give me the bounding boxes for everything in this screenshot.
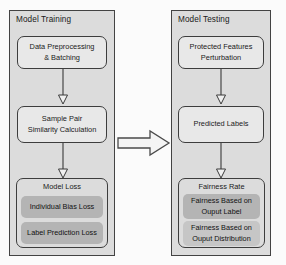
node-sample-pair-similarity-calculation[interactable]: Sample Pair Similarity Calculation [17, 106, 107, 143]
block-arrow-training-to-testing [117, 129, 171, 157]
connector-perturbation-to-predicted-labels [215, 69, 227, 106]
connector-predicted-labels-to-fairness-rate [215, 143, 227, 180]
group-model-loss-title: Model Loss [17, 182, 107, 193]
group-fairness-rate[interactable]: Fairness Rate Fairness Based on Ouput La… [178, 178, 265, 248]
connector-similarity-to-model-loss [57, 143, 69, 180]
group-model-loss[interactable]: Model Loss Individual Bias Loss Label Pr… [16, 178, 108, 248]
subbox-fairness-distribution-text: Fairness Based on Ouput Distribution [191, 223, 252, 243]
connector-preprocessing-to-similarity [57, 69, 69, 106]
diagram-canvas: Model Training Data Preprocessing & Batc… [0, 0, 286, 265]
panel-training-title: Model Training [16, 15, 71, 24]
subbox-fairness-based-on-ouput-distribution[interactable]: Fairness Based on Ouput Distribution [183, 221, 260, 246]
subbox-fairness-based-on-ouput-label[interactable]: Fairness Based on Ouput Label [183, 194, 260, 219]
panel-testing-title: Model Testing [178, 15, 230, 24]
node-preprocessing-label: Data Preprocessing & Batching [30, 42, 95, 63]
subbox-individual-bias-label: Individual Bias Loss [30, 202, 95, 212]
group-fairness-rate-title: Fairness Rate [179, 182, 264, 193]
node-protected-features-perturbation[interactable]: Protected Features Perturbation [178, 36, 264, 69]
node-perturbation-label: Protected Features Perturbation [190, 42, 253, 63]
node-data-preprocessing-batching[interactable]: Data Preprocessing & Batching [17, 36, 107, 69]
node-similarity-label: Sample Pair Similarity Calculation [28, 114, 97, 135]
subbox-fairness-label-text: Fairness Based on Ouput Label [191, 196, 252, 216]
subbox-label-prediction-label: Label Prediction Loss [27, 228, 97, 238]
subbox-individual-bias-loss[interactable]: Individual Bias Loss [21, 196, 103, 218]
subbox-label-prediction-loss[interactable]: Label Prediction Loss [21, 222, 103, 244]
node-predicted-labels[interactable]: Predicted Labels [178, 106, 264, 143]
node-predicted-labels-label: Predicted Labels [193, 119, 248, 130]
